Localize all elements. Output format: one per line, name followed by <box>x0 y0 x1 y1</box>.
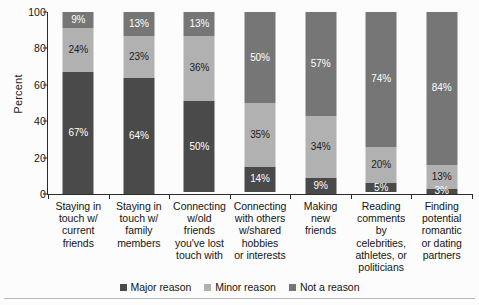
x-tick-mark <box>351 194 352 199</box>
x-axis-category-line: w/old <box>169 212 230 224</box>
chart-legend: Major reasonMinor reasonNot a reason <box>0 281 479 293</box>
x-axis-category-line: members <box>109 237 170 249</box>
x-tick-mark <box>109 194 110 199</box>
bar-segment-minor[interactable]: 24% <box>63 28 94 72</box>
x-axis-category-line: friends <box>48 237 109 249</box>
bar-segment-minor[interactable]: 36% <box>184 36 215 102</box>
stacked-bar[interactable]: 9%24%67% <box>63 12 94 194</box>
y-axis-tick-labels: 020406080100 <box>14 8 46 194</box>
bar-segment-value: 36% <box>190 63 210 73</box>
x-tick-mark <box>230 194 231 199</box>
x-axis-category-line: new <box>290 212 351 224</box>
x-axis-category-line: Connecting <box>169 200 230 212</box>
bar-segment-value: 13% <box>190 19 210 29</box>
bar-segment-not[interactable]: 13% <box>123 12 154 36</box>
bar-segment-not[interactable]: 13% <box>184 12 215 36</box>
bar-segment-not[interactable]: 74% <box>366 12 397 147</box>
bar-segment-value: 67% <box>68 128 88 138</box>
bar-segment-value: 35% <box>250 130 270 140</box>
bar-segment-value: 20% <box>371 160 391 170</box>
stacked-bar[interactable]: 57%34%9% <box>305 12 336 194</box>
x-axis-category-line: or interests <box>230 249 291 261</box>
stacked-bar[interactable]: 50%35%14% <box>244 12 275 194</box>
bar-column: 9%24%67% <box>48 12 109 194</box>
x-axis-category-label: Connectingwith othersw/sharedhobbiesor i… <box>230 200 291 261</box>
bar-segment-minor[interactable]: 20% <box>366 147 397 183</box>
x-axis-category-line: Staying in <box>48 200 109 212</box>
y-tick-mark-40 <box>43 121 47 122</box>
bar-segment-value: 14% <box>250 174 270 184</box>
x-axis-category-label: Readingcomments bycelebrities,athletes, … <box>351 200 412 273</box>
bar-segment-value: 9% <box>313 181 327 191</box>
x-axis-category-label: Staying intouch w/currentfriends <box>48 200 109 249</box>
legend-item[interactable]: Not a reason <box>289 281 360 293</box>
bar-segment-value: 5% <box>374 183 388 193</box>
x-axis-category-line: partners <box>411 249 472 261</box>
y-tick-label-60: 60 <box>14 79 46 91</box>
x-axis-category-line: or dating <box>411 237 472 249</box>
bar-segment-major[interactable]: 67% <box>63 72 94 194</box>
stacked-bar-chart: Percent 020406080100 9%24%67%13%23%64%13… <box>0 0 479 305</box>
y-tick-label-0: 0 <box>14 188 46 200</box>
legend-swatch-icon <box>289 284 296 291</box>
x-tick-mark <box>48 194 49 199</box>
bar-column: 50%35%14% <box>230 12 291 194</box>
legend-item[interactable]: Major reason <box>120 281 192 293</box>
bar-segment-major[interactable]: 14% <box>244 167 275 192</box>
legend-label: Not a reason <box>300 281 360 293</box>
footer-divider <box>4 298 475 299</box>
bar-segment-not[interactable]: 50% <box>244 12 275 103</box>
legend-swatch-icon <box>204 284 211 291</box>
bar-segment-value: 50% <box>250 53 270 63</box>
plot-area: 9%24%67%13%23%64%13%36%50%50%35%14%57%34… <box>48 12 472 194</box>
x-axis-category-line: touch w/ <box>109 212 170 224</box>
bar-segment-value: 84% <box>432 83 452 93</box>
stacked-bar[interactable]: 13%23%64% <box>123 12 154 194</box>
bar-column: 13%36%50% <box>169 12 230 194</box>
x-axis-category-line: with others <box>230 212 291 224</box>
bar-segment-minor[interactable]: 35% <box>244 103 275 167</box>
x-tick-mark <box>290 194 291 199</box>
bar-segment-value: 23% <box>129 52 149 62</box>
bar-segment-minor[interactable]: 23% <box>123 36 154 78</box>
x-tick-mark <box>411 194 412 199</box>
y-tick-label-100: 100 <box>14 6 46 18</box>
bar-segment-major[interactable]: 64% <box>123 78 154 194</box>
x-axis-category-line: athletes, or <box>351 249 412 261</box>
x-axis-category-label: Makingnewfriends <box>290 200 351 237</box>
bar-segment-major[interactable]: 9% <box>305 178 336 194</box>
y-tick-mark-100 <box>43 12 47 13</box>
x-axis-category-line: hobbies <box>230 237 291 249</box>
bar-segment-value: 57% <box>311 59 331 69</box>
legend-label: Major reason <box>131 281 192 293</box>
y-tick-mark-20 <box>43 157 47 158</box>
bar-segment-value: 13% <box>432 172 452 182</box>
bar-segment-value: 74% <box>371 74 391 84</box>
bar-segment-major[interactable]: 50% <box>184 101 215 192</box>
x-axis-category-line: touch with <box>169 249 230 261</box>
x-axis-category-line: politicians <box>351 261 412 273</box>
bar-segment-minor[interactable]: 34% <box>305 116 336 178</box>
bar-segment-major[interactable]: 5% <box>366 183 397 192</box>
stacked-bar[interactable]: 84%13%3% <box>426 12 457 194</box>
x-axis-line <box>47 194 472 195</box>
x-tick-mark <box>472 194 473 199</box>
x-axis-category-line: Staying in <box>109 200 170 212</box>
bar-column: 57%34%9% <box>290 12 351 194</box>
x-axis-category-line: family <box>109 224 170 236</box>
legend-item[interactable]: Minor reason <box>204 281 276 293</box>
x-axis-category-line: Connecting <box>230 200 291 212</box>
x-axis-category-line: current <box>48 224 109 236</box>
bar-segment-value: 64% <box>129 131 149 141</box>
bar-column: 13%23%64% <box>109 12 170 194</box>
x-axis-category-line: friends <box>169 224 230 236</box>
stacked-bar[interactable]: 74%20%5% <box>366 12 397 194</box>
bar-column: 74%20%5% <box>351 12 412 194</box>
bar-segment-not[interactable]: 9% <box>63 12 94 28</box>
x-axis-category-line: celebrities, <box>351 237 412 249</box>
bar-segment-not[interactable]: 57% <box>305 12 336 116</box>
y-tick-mark-0 <box>43 194 47 195</box>
stacked-bar[interactable]: 13%36%50% <box>184 12 215 194</box>
y-tick-label-40: 40 <box>14 115 46 127</box>
bar-segment-not[interactable]: 84% <box>426 12 457 165</box>
